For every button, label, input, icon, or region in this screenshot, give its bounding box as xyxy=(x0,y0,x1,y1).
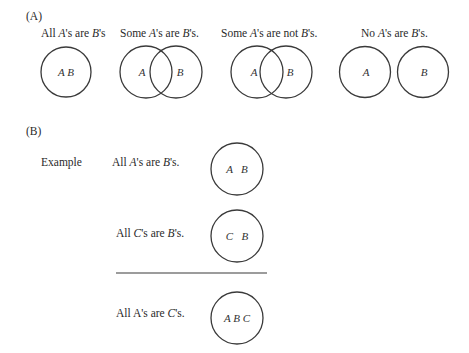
premise-2-circle-text: C B xyxy=(226,230,249,242)
circle-letter-b: B xyxy=(287,66,294,78)
conclusion-circle-text: A B C xyxy=(223,312,251,324)
circle-letter-b: B xyxy=(177,66,184,78)
venn-circle-a xyxy=(120,46,172,98)
venn-diagrams: A B A B A B A B A B C B A B C xyxy=(0,0,469,353)
circle-letter-a: A xyxy=(250,66,258,78)
circle-letters: A B xyxy=(57,66,74,78)
circle-letter-a: A xyxy=(138,66,146,78)
premise-1-circle-text: A B xyxy=(225,163,248,175)
circle-letter-a: A xyxy=(362,66,370,78)
circle-letter-b: B xyxy=(421,66,428,78)
